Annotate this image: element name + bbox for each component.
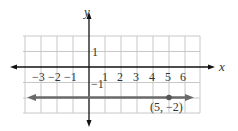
x-tick-label: −2 — [48, 70, 61, 84]
x-tick-label: 6 — [180, 70, 186, 84]
x-tick-label: 2 — [117, 70, 123, 84]
x-tick-label: 5 — [165, 70, 171, 84]
x-tick-label: −3 — [32, 70, 45, 84]
x-axis-left-arrow-icon — [10, 65, 17, 70]
line-right-arrow-icon — [185, 94, 194, 101]
x-axis-right-arrow-icon — [208, 65, 215, 70]
x-tick-label: 4 — [149, 70, 155, 84]
y-tick-label-neg: −1 — [91, 77, 104, 91]
y-axis — [87, 12, 92, 127]
y-tick-label-pos: 1 — [92, 45, 98, 59]
x-tick-label: 3 — [133, 70, 139, 84]
y-axis-down-arrow-icon — [87, 120, 92, 127]
point-label: (5, −2) — [150, 100, 183, 114]
x-tick-labels: −3 −2 −1 1 2 3 4 5 6 — [32, 70, 186, 84]
y-axis-label: y — [82, 4, 90, 19]
line-left-arrow-icon — [27, 94, 36, 101]
x-tick-label: −1 — [64, 70, 77, 84]
x-axis-label: x — [218, 59, 225, 74]
coordinate-plane: x y −3 −2 −1 1 2 3 4 5 6 1 −1 (5, −2) — [0, 0, 238, 131]
